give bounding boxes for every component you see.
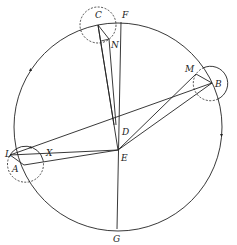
label-B: B (214, 79, 222, 89)
label-E: E (120, 153, 128, 163)
label-F: F (121, 10, 129, 20)
label-L: L (4, 149, 11, 159)
label-X: X (45, 148, 53, 158)
label-G: G (113, 234, 120, 244)
geometry-diagram: C F N M B D E L X A G (0, 0, 237, 245)
line-F-G (117, 22, 121, 229)
line-B-E (118, 83, 212, 150)
label-M: M (184, 64, 195, 74)
label-A: A (11, 164, 19, 174)
label-N: N (110, 40, 120, 50)
line-L-B (10, 83, 212, 155)
line-N-D (109, 39, 116, 125)
label-C: C (95, 10, 102, 20)
label-D: D (121, 127, 129, 137)
arrow-icon (220, 134, 223, 137)
